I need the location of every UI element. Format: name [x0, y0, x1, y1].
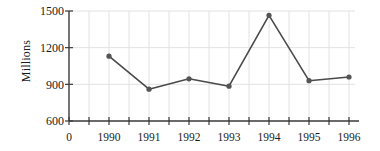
data-point-1990: [106, 54, 111, 59]
data-point-1993: [226, 84, 231, 89]
axis-ticks: [65, 11, 349, 125]
axes: [69, 11, 359, 121]
data-point-1992: [186, 76, 191, 81]
line-chart: Millions 1500 1200 900 600 0 1990 1991 1…: [0, 0, 380, 151]
data-point-1994: [266, 13, 271, 18]
data-point-1995: [306, 78, 311, 83]
data-point-1991: [146, 87, 151, 92]
data-point-1996: [346, 74, 351, 79]
plot-area: [0, 0, 380, 151]
gridlines: [69, 11, 355, 121]
